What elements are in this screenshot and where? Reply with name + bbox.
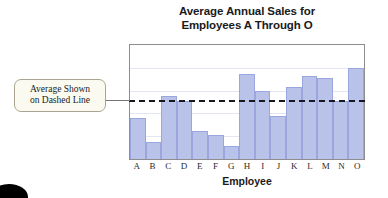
x-tick-label: G bbox=[223, 161, 239, 171]
bar-F bbox=[208, 135, 224, 159]
bar-L bbox=[302, 76, 318, 159]
x-axis-title: Employee bbox=[129, 175, 365, 187]
bar-K bbox=[286, 87, 302, 159]
average-annotation-callout: Average Shown on Dashed Line bbox=[14, 79, 106, 112]
bar-D bbox=[177, 101, 193, 159]
callout-line-1: Average Shown bbox=[20, 84, 100, 95]
x-tick-label: J bbox=[271, 161, 287, 171]
bar-H bbox=[239, 74, 255, 160]
x-tick-label: N bbox=[334, 161, 350, 171]
bar-N bbox=[333, 101, 349, 159]
x-tick-label: H bbox=[239, 161, 255, 171]
bar-C bbox=[161, 96, 177, 159]
x-tick-label: L bbox=[302, 161, 318, 171]
bar-series bbox=[130, 45, 364, 159]
x-tick-label: B bbox=[145, 161, 161, 171]
bar-O bbox=[348, 68, 364, 159]
x-tick-label: M bbox=[318, 161, 334, 171]
bar-G bbox=[224, 146, 240, 159]
x-tick-label: O bbox=[349, 161, 365, 171]
chart-figure: Average Annual Sales for Employees A Thr… bbox=[0, 0, 388, 198]
bar-A bbox=[130, 118, 146, 159]
bar-E bbox=[192, 131, 208, 160]
x-tick-label: D bbox=[176, 161, 192, 171]
decorative-corner-shape bbox=[0, 184, 28, 198]
bar-M bbox=[317, 78, 333, 159]
chart-title: Average Annual Sales for Employees A Thr… bbox=[129, 4, 365, 32]
x-tick-label: C bbox=[160, 161, 176, 171]
chart-title-line-2: Employees A Through O bbox=[129, 18, 365, 32]
average-dashed-line bbox=[129, 100, 365, 102]
x-tick-label: I bbox=[255, 161, 271, 171]
callout-line-2: on Dashed Line bbox=[20, 95, 100, 106]
bar-B bbox=[146, 142, 162, 159]
callout-connector-line bbox=[106, 100, 130, 101]
x-tick-label: F bbox=[208, 161, 224, 171]
x-tick-label: K bbox=[286, 161, 302, 171]
bar-J bbox=[270, 116, 286, 159]
chart-title-line-1: Average Annual Sales for bbox=[179, 5, 315, 17]
x-tick-label: E bbox=[192, 161, 208, 171]
x-axis-tick-labels: A B C D E F G H I J K L M N O bbox=[129, 161, 365, 171]
x-tick-label: A bbox=[129, 161, 145, 171]
plot-area bbox=[129, 44, 365, 160]
